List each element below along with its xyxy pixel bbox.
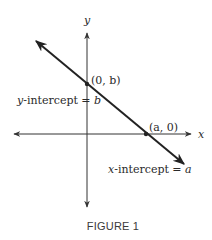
y-axis-label: y — [83, 14, 91, 27]
x-intercept-point — [144, 132, 148, 136]
x-axis-label: x — [198, 128, 205, 141]
x-intercept-point-label: (a, 0) — [149, 121, 178, 134]
y-intercept-point-label: (0, b) — [91, 74, 121, 87]
x-intercept-annotation: x-intercept = a — [108, 163, 192, 176]
y-intercept-annotation: y-intercept = b — [16, 94, 101, 107]
figure-caption: FIGURE 1 — [87, 220, 139, 232]
y-intercept-point — [85, 82, 89, 86]
line-intercepts-diagram: y x (0, b) (a, 0) y-intercept = b x-inte… — [0, 0, 212, 240]
